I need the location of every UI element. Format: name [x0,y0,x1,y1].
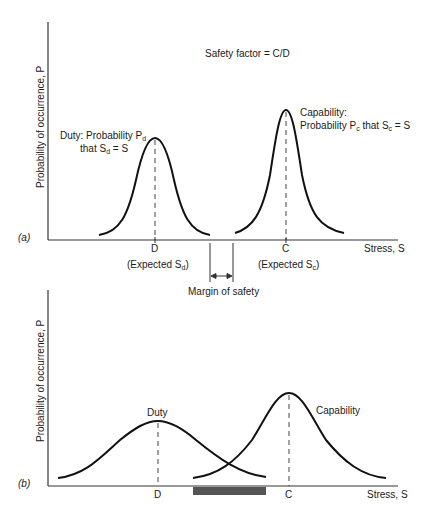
panel-b-duty-label: Duty [147,407,168,418]
panel-a-tick-d: D [151,243,158,254]
panel-a-tag: (a) [18,232,30,243]
panel-b-tick-d: D [154,489,161,500]
panel-b-overlap-bar [193,487,266,495]
margin-of-safety-marker [210,243,233,282]
panel-b-duty-curve [58,421,266,478]
panel-a-expected-c: (Expected Sc) [258,259,319,270]
panel-b-capability-label: Capability [316,405,360,416]
panel-b-y-axis-label: Probability of occurrence, P [35,320,46,442]
panel-b-tag: (b) [18,478,30,489]
panel-a-x-axis-label: Stress, S [364,243,405,254]
panel-a-tick-c: C [282,243,289,254]
panel-a-title: Safety factor = C/D [205,48,290,59]
diagram-canvas [0,0,428,511]
panel-a-capability-label-line1: Capability: [300,107,347,118]
panel-a-duty-label-line2: that Sd = S [80,143,128,154]
margin-of-safety-label: Margin of safety [188,286,259,297]
panel-a-y-axis-label: Probability of occurrence, P [35,66,46,188]
panel-a-capability-label-line2: Probability Pc that Sc = S [300,120,410,131]
panel-b-x-axis-label: Stress, S [367,489,408,500]
panel-a-expected-d: (Expected Sd) [127,259,189,270]
panel-a-duty-label-line1: Duty: Probability Pd [60,130,146,141]
panel-b-tick-c: C [285,489,292,500]
